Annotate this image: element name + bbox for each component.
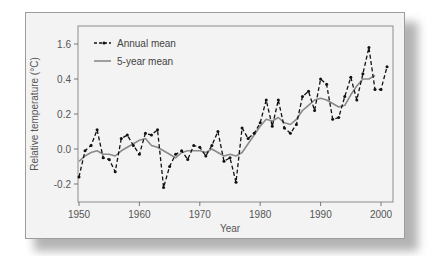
annual-data-point [114, 170, 117, 173]
annual-data-point [289, 132, 292, 135]
plot-area [78, 26, 393, 202]
x-tick-label: 2000 [370, 209, 393, 220]
annual-data-point [162, 186, 165, 189]
annual-data-point [325, 83, 328, 86]
annual-data-point [102, 156, 105, 159]
annual-data-point [192, 144, 195, 147]
y-tick-label: -0.2 [54, 179, 72, 190]
annual-data-point [361, 72, 364, 75]
annual-data-point [126, 134, 129, 137]
annual-data-point [96, 128, 99, 131]
annual-data-point [271, 125, 274, 128]
annual-data-point [186, 158, 189, 161]
annual-data-point [144, 132, 147, 135]
y-axis: 1.60.40.20.0-0.2 [54, 39, 78, 190]
annual-data-point [373, 88, 376, 91]
annual-data-point [168, 165, 171, 168]
x-tick-label: 1990 [309, 209, 332, 220]
annual-data-point [84, 149, 87, 152]
annual-data-point [277, 99, 280, 102]
y-axis-title: Relative temperature (°C) [29, 57, 40, 170]
temperature-chart: 1.60.40.20.0-0.2 19501960197019801990200… [0, 0, 433, 256]
x-axis: 195019601970198019902000 [68, 202, 393, 220]
annual-data-point [295, 123, 298, 126]
annual-data-point [120, 137, 123, 140]
annual-data-point [301, 95, 304, 98]
annual-data-point [90, 144, 93, 147]
x-axis-title: Year [220, 223, 241, 234]
annual-data-point [78, 176, 81, 179]
y-tick-label: 0.4 [57, 74, 71, 85]
annual-data-point [150, 134, 153, 137]
annual-data-point [355, 99, 358, 102]
annual-data-point [138, 153, 141, 156]
annual-data-point [222, 160, 225, 163]
marker-icon [102, 41, 105, 44]
x-tick-label: 1960 [128, 209, 151, 220]
annual-data-point [180, 149, 183, 152]
y-tick-label: 1.6 [57, 39, 71, 50]
annual-data-point [337, 116, 340, 119]
annual-data-point [235, 181, 238, 184]
annual-data-point [253, 132, 256, 135]
annual-data-point [247, 137, 250, 140]
annual-data-point [313, 109, 316, 112]
annual-data-point [319, 78, 322, 81]
annual-data-point [386, 65, 389, 68]
annual-data-point [241, 127, 244, 130]
annual-data-point [343, 95, 346, 98]
annual-data-point [156, 128, 159, 131]
x-tick-label: 1950 [68, 209, 91, 220]
annual-data-point [367, 46, 370, 49]
y-tick-label: 0.2 [57, 109, 71, 120]
annual-data-point [307, 90, 310, 93]
annual-data-point [198, 146, 201, 149]
annual-data-point [174, 153, 177, 156]
legend-label-annual: Annual mean [117, 38, 176, 49]
annual-data-point [229, 156, 232, 159]
x-tick-label: 1970 [189, 209, 212, 220]
annual-data-point [283, 127, 286, 130]
legend-label-five-year: 5-year mean [117, 56, 173, 67]
annual-data-point [265, 99, 268, 102]
plot-border [78, 26, 393, 202]
annual-data-point [210, 144, 213, 147]
annual-data-point [216, 130, 219, 133]
annual-data-point [349, 76, 352, 79]
y-tick-label: 0.0 [57, 144, 71, 155]
annual-data-point [380, 88, 383, 91]
annual-data-point [204, 155, 207, 158]
annual-data-point [331, 118, 334, 121]
x-tick-label: 1980 [249, 209, 272, 220]
annual-data-point [108, 158, 111, 161]
annual-data-point [259, 121, 262, 124]
annual-data-point [132, 144, 135, 147]
